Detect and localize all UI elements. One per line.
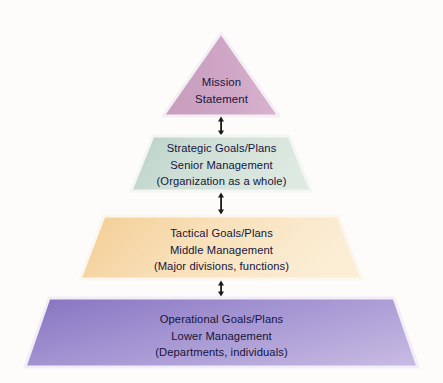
tier-shape-tactical [80, 216, 362, 279]
tier-shape-strategic [131, 136, 311, 191]
tier-shape-mission [163, 33, 279, 116]
connector-strategic-tactical-icon [218, 193, 224, 215]
pyramid-diagram [0, 0, 443, 383]
connector-mission-strategic-icon [218, 117, 224, 136]
tier-shape-operational [25, 298, 418, 367]
connector-tactical-operational-icon [218, 281, 224, 297]
